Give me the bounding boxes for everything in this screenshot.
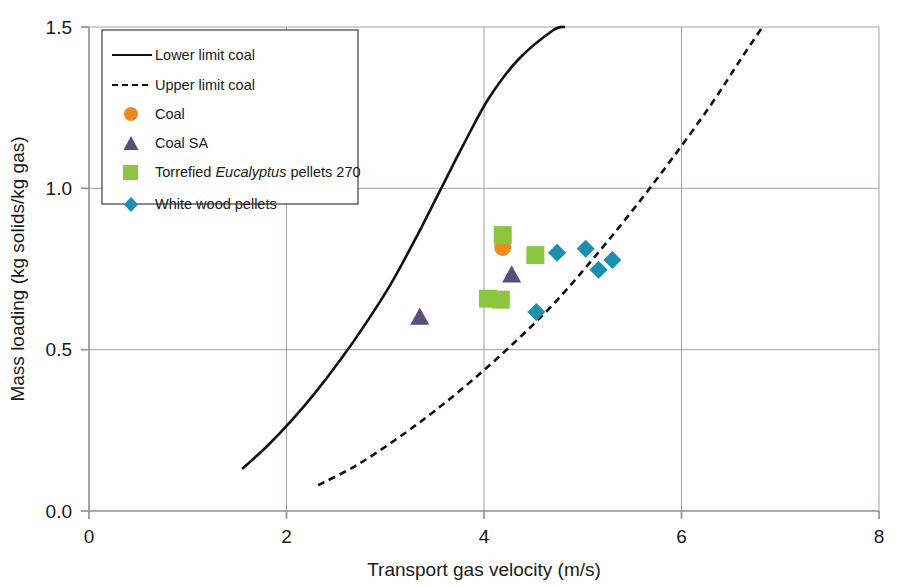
legend-label-coal: Coal xyxy=(155,106,185,122)
legend-label-torrefied-eucalyptus: Torrefied Eucalyptus pellets 270 xyxy=(155,164,361,180)
x-tick-label-2: 2 xyxy=(281,526,292,547)
x-tick-label-0: 0 xyxy=(84,526,95,547)
legend-torrefied-post: pellets 270 xyxy=(286,164,360,180)
legend-label-white-wood-pellets: White wood pellets xyxy=(155,196,277,212)
y-axis-title: Mass loading (kg solids/kg gas) xyxy=(7,136,28,401)
y-tick-label-0: 0.0 xyxy=(46,501,72,522)
legend-label-lower-limit-coal: Lower limit coal xyxy=(155,47,255,63)
legend-torrefied-pre: Torrefied xyxy=(155,164,215,180)
legend-label-coal-sa: Coal SA xyxy=(155,135,209,151)
x-tick-label-8: 8 xyxy=(874,526,885,547)
y-tick-label-05: 0.5 xyxy=(46,339,72,360)
legend-item-torrefied-eucalyptus: Torrefied Eucalyptus pellets 270 xyxy=(123,164,361,180)
x-axis-title: Transport gas velocity (m/s) xyxy=(367,559,601,580)
x-tick-label-6: 6 xyxy=(676,526,687,547)
y-tick-label-15: 1.5 xyxy=(46,17,72,38)
marker-torrefied-eucalyptus xyxy=(494,226,512,244)
legend-item-coal: Coal xyxy=(124,106,185,122)
marker-torrefied-eucalyptus xyxy=(492,291,510,309)
y-tick-label-10: 1.0 xyxy=(46,178,72,199)
chart-figure: 0 2 4 6 8 0.0 0.5 1.0 1.5 Transport gas … xyxy=(0,0,905,585)
x-tick-label-4: 4 xyxy=(479,526,490,547)
scatter-chart: 0 2 4 6 8 0.0 0.5 1.0 1.5 Transport gas … xyxy=(0,0,905,585)
chart-legend: Lower limit coal Upper limit coal Coal C… xyxy=(102,30,361,212)
legend-square-icon xyxy=(123,165,138,180)
legend-label-upper-limit-coal: Upper limit coal xyxy=(155,77,255,93)
marker-torrefied-eucalyptus xyxy=(526,246,544,264)
legend-circle-icon xyxy=(124,107,138,121)
legend-torrefied-italic: Eucalyptus xyxy=(215,164,286,180)
